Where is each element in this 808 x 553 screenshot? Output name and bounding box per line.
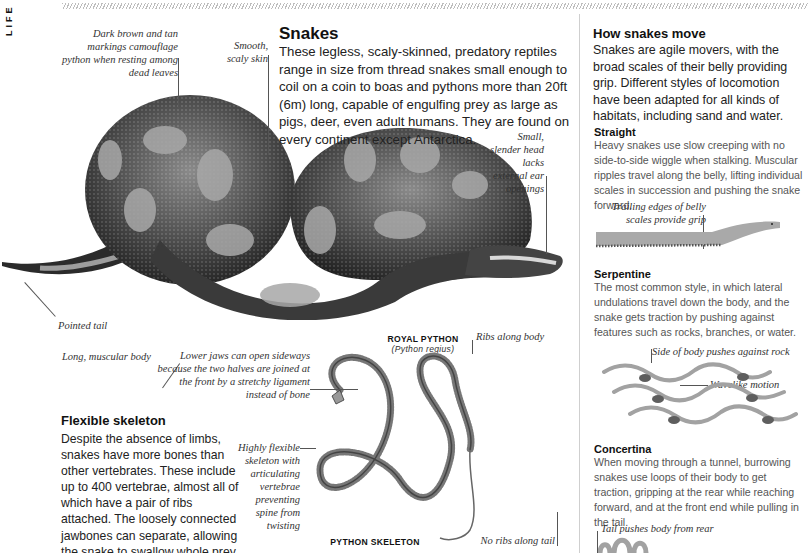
callout-ribs: Ribs along body <box>476 330 566 343</box>
python-skeleton-illustration <box>300 350 490 550</box>
leader-head <box>546 176 547 254</box>
movement-intro: Snakes are agile movers, with the broad … <box>593 42 803 125</box>
snakes-title: Snakes <box>279 24 339 44</box>
callout-flexible: Highly flexible skeleton with articulati… <box>232 441 300 532</box>
callout-side-rock: Side of body pushes against rock <box>652 345 802 358</box>
leader-skin <box>268 55 269 155</box>
callout-markings: Dark brown and tan markings camouflage p… <box>60 27 178 79</box>
serpentine-motion-snakes <box>600 360 800 440</box>
callout-tail-pushes: Tail pushes body from rear <box>601 522 751 535</box>
style-serpentine-text: The most common style, in which lateral … <box>594 280 806 340</box>
callout-tail: Pointed tail <box>58 319 138 332</box>
leader-flexible <box>300 448 316 449</box>
movement-title: How snakes move <box>593 26 706 41</box>
leader-no-ribs-tail <box>557 512 558 546</box>
python-skeleton-label: PYTHON SKELETON <box>320 537 430 547</box>
skeleton-title: Flexible skeleton <box>61 413 166 428</box>
skeleton-body: Despite the absence of limbs, snakes hav… <box>61 431 239 553</box>
style-straight-title: Straight <box>594 126 636 138</box>
section-label: LIFE <box>4 6 24 36</box>
callout-no-ribs-tail: No ribs along tail <box>460 534 555 547</box>
leader-jaws <box>310 389 358 390</box>
header-hatch-band <box>62 3 808 9</box>
straight-motion-snake <box>592 218 784 253</box>
callout-skin: Smooth, scaly skin <box>216 39 268 65</box>
concertina-motion-snake <box>598 536 658 553</box>
leader-markings <box>178 58 179 108</box>
style-serpentine-title: Serpentine <box>594 268 651 280</box>
style-concertina-title: Concertina <box>594 443 651 455</box>
snakes-body: These legless, scaly-skinned, predatory … <box>279 43 571 149</box>
royal-python-name: ROYAL PYTHON <box>388 334 459 344</box>
leader-ribs <box>472 340 473 354</box>
style-concertina-text: When moving through a tunnel, burrowing … <box>594 455 806 530</box>
callout-jaws: Lower jaws can open sideways because the… <box>155 349 310 401</box>
